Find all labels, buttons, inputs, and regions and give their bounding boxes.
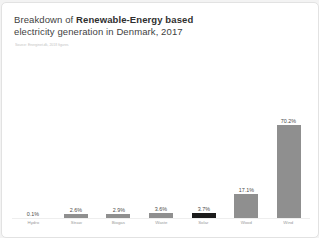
chart-title-line2: electricity generation in Denmark, 2017 (14, 26, 183, 37)
bar-group-solar: 3.7%Solar (182, 118, 225, 138)
bar-chart: 0.1%Hydro2.6%Straw2.9%Biogas3.6%Waste3.7… (12, 118, 230, 138)
chart-title-prefix: Breakdown of (14, 14, 76, 25)
bar-group-waste: 3.6%Waste (140, 118, 183, 138)
bar-group-hydro: 0.1%Hydro (12, 118, 55, 138)
bar-group-biogas: 2.9%Biogas (97, 118, 140, 138)
bar-group-straw: 2.6%Straw (55, 118, 98, 138)
chart-title: Breakdown of Renewable-Energy basedelect… (14, 14, 199, 38)
chart-card: Breakdown of Renewable-Energy basedelect… (1, 2, 230, 138)
chart-title-emphasis: Renewable-Energy based (76, 14, 193, 25)
bar-group-wood: 17.1%Wood (225, 118, 230, 138)
source-note: Source: Energinet.dk, 2018 figures (15, 43, 69, 46)
